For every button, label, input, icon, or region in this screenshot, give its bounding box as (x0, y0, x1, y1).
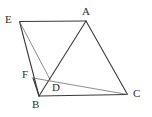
segment-EB (20, 22, 40, 97)
vertex-label-F: F (22, 69, 28, 80)
vertex-label-C: C (133, 88, 140, 99)
segment-FC (33, 78, 128, 95)
vertex-label-A: A (82, 6, 90, 17)
geometry-figure: E A F D B C (0, 0, 152, 117)
segment-AC (86, 21, 128, 95)
segment-EA (20, 21, 87, 22)
segment-FB (33, 78, 39, 96)
vertex-label-E: E (5, 14, 12, 25)
vertex-label-D: D (52, 82, 60, 93)
geometry-canvas (0, 0, 152, 117)
segment-BC (39, 95, 128, 97)
vertex-label-B: B (32, 99, 39, 110)
segment-AB (39, 21, 86, 96)
segments-group (20, 21, 128, 96)
